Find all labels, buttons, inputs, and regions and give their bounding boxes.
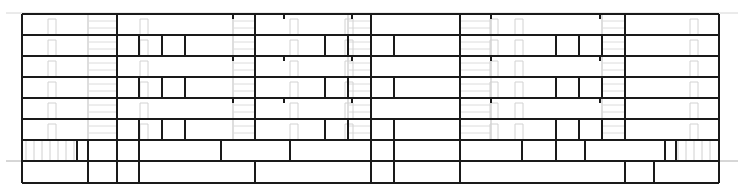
wall-structure-layer xyxy=(22,14,719,183)
building-elevation-drawing xyxy=(0,0,742,195)
